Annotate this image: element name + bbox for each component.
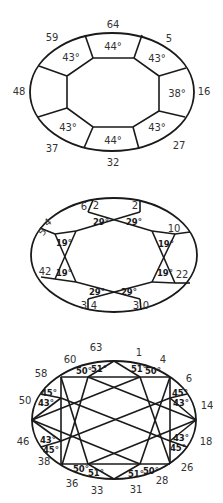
angle-bot-r50: 50°	[143, 466, 159, 476]
label-1: 1	[136, 347, 142, 358]
label-2a: 2	[93, 200, 99, 211]
label-3a: 3	[81, 300, 87, 311]
label-6: 6	[186, 373, 192, 384]
angle-right-b43: 43°	[173, 433, 189, 443]
outer-ellipse	[31, 198, 197, 312]
label-28: 28	[156, 475, 169, 486]
label-14: 14	[201, 400, 214, 411]
label-46: 46	[17, 436, 30, 447]
label-59: 59	[46, 32, 59, 43]
label-38: 38	[38, 456, 51, 467]
angle-top-r50: 50°	[145, 366, 161, 376]
angle-top-right: 43°	[148, 53, 166, 64]
angle-left-bottom: 19°	[56, 268, 72, 278]
label-33: 33	[91, 485, 104, 496]
label-64: 64	[107, 19, 120, 30]
angle-bot-r51: 51°	[128, 469, 144, 479]
label-0: 0	[143, 300, 149, 311]
label-18: 18	[200, 436, 213, 447]
label-27: 27	[173, 140, 186, 151]
crown-diagram: 64 5 16 27 32 37 48 59 44° 43° 38° 43° 4…	[13, 19, 211, 168]
angle-bot-l51: 51°	[88, 468, 104, 478]
label-2b: 2	[132, 200, 138, 211]
angle-left-top: 19°	[56, 238, 72, 248]
angle-bottom-left: 43°	[59, 122, 77, 133]
angle-left-b43: 43°	[40, 435, 56, 445]
label-26: 26	[181, 462, 194, 473]
label-4: 4	[160, 354, 166, 365]
angle-right-t45: 45°	[172, 388, 188, 398]
label-16: 16	[198, 86, 211, 97]
label-5: 5	[166, 33, 172, 44]
label-60: 60	[64, 354, 77, 365]
label-48: 48	[13, 86, 26, 97]
angle-bottom-right: 43°	[148, 122, 166, 133]
angle-top: 44°	[104, 41, 122, 52]
girdle-diagram: 6 2 2 10 22 3 0 3 4 42 5 4 29° 29° 19° 1…	[31, 198, 197, 312]
angle-right-top: 19°	[158, 239, 174, 249]
label-3b: 3	[133, 300, 139, 311]
angle-right-b45: 45°	[170, 443, 186, 453]
label-31: 31	[130, 484, 143, 495]
angle-right-bottom: 19°	[157, 268, 173, 278]
label-36: 36	[66, 478, 79, 489]
label-50: 50	[19, 395, 32, 406]
label-6: 6	[81, 201, 87, 212]
angle-bottom-left: 29°	[89, 287, 105, 297]
angle-left-t45: 45°	[41, 388, 57, 398]
label-4a: 4	[91, 300, 97, 311]
angle-bottom: 44°	[104, 135, 122, 146]
angle-bot-l50: 50°	[73, 464, 89, 474]
angle-right-t43: 43°	[173, 398, 189, 408]
pavilion-diagram: 63 1 4 6 14 18 26 28 31 33 36 38 46 50 5…	[17, 342, 214, 496]
label-37: 37	[46, 143, 59, 154]
angle-top-l51: 51°	[91, 364, 107, 374]
inner-octagon	[67, 58, 159, 127]
angle-left-b45: 45°	[43, 445, 59, 455]
angle-bottom-right: 29°	[121, 287, 137, 297]
label-58: 58	[35, 368, 48, 379]
label-22: 22	[176, 269, 189, 280]
facet-angle-diagrams: 64 5 16 27 32 37 48 59 44° 43° 38° 43° 4…	[0, 0, 223, 503]
label-63: 63	[90, 342, 103, 353]
angle-left-t43: 43°	[38, 398, 54, 408]
angle-top-l50: 50°	[76, 366, 92, 376]
angle-top-left: 29°	[93, 217, 109, 227]
label-5: 5	[36, 226, 49, 238]
angle-top-right: 29°	[126, 217, 142, 227]
angle-right: 38°	[168, 88, 186, 99]
angle-top-left: 43°	[62, 52, 80, 63]
label-10: 10	[168, 223, 181, 234]
label-42: 42	[39, 266, 52, 277]
label-32: 32	[107, 157, 120, 168]
